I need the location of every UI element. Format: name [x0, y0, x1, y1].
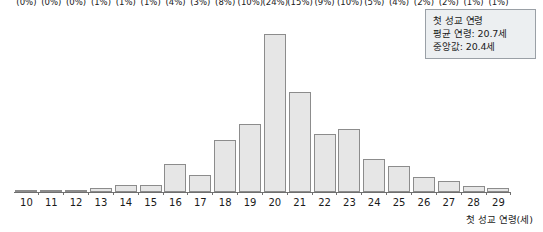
bar-item: 12(2%) [436, 10, 461, 192]
bar-item: 7(1%) [461, 10, 486, 192]
bar-percent-label: (24%) [262, 0, 287, 8]
bar-label-group: 69(10%) [337, 0, 362, 8]
bar-label-group: 75(10%) [238, 0, 263, 8]
bar-percent-label: (4%) [387, 0, 412, 8]
bar-rect: 16(2%) [413, 177, 435, 192]
bar-percent-label: (1%) [89, 0, 114, 8]
x-tick [138, 192, 163, 196]
bar-percent-label: (1%) [486, 0, 511, 8]
bar-percent-label: (1%) [461, 0, 486, 8]
bar-percent-label: (1%) [113, 0, 138, 8]
bar-percent-label: (5%) [362, 0, 387, 8]
x-tick-label: 27 [436, 197, 461, 208]
x-axis-ticks [14, 192, 511, 196]
bar-item: 31(4%) [163, 10, 188, 192]
bar-percent-label: (15%) [287, 0, 312, 8]
x-tick-label: 24 [362, 197, 387, 208]
x-tick-label: 14 [113, 197, 138, 208]
bar-percent-label: (10%) [337, 0, 362, 8]
x-tick-label: 23 [337, 197, 362, 208]
x-tick-mark [510, 192, 511, 195]
x-tick [362, 192, 387, 196]
x-tick [312, 192, 337, 196]
x-tick-label: 15 [138, 197, 163, 208]
bar-percent-label: (9%) [312, 0, 337, 8]
bar-rect: 109(15%) [289, 92, 311, 192]
bar-label-group: 12(2%) [436, 0, 461, 8]
bar-label-group: 2(0%) [64, 0, 89, 8]
bar-label-group: 19(3%) [188, 0, 213, 8]
bar-item: 2(0%) [64, 10, 89, 192]
x-tick [163, 192, 188, 196]
bar-item: 57(8%) [213, 10, 238, 192]
bar-rect: 19(3%) [189, 175, 211, 192]
x-tick-label: 10 [14, 197, 39, 208]
x-tick [213, 192, 238, 196]
bar-label-group: 16(2%) [412, 0, 437, 8]
x-tick-label: 11 [39, 197, 64, 208]
bar-item: 36(5%) [362, 10, 387, 192]
bar-chart-figure: 첫 성교 연령 평균 연령: 20.7세 중앙값: 20.4세 1(0%)1(0… [0, 0, 543, 232]
bar-rect: 36(5%) [363, 159, 385, 192]
bar-rect: 63(9%) [314, 134, 336, 192]
bar-series: 1(0%)1(0%)2(0%)4(1%)8(1%)8(1%)31(4%)19(3… [14, 10, 511, 192]
bar-label-group: 7(1%) [461, 0, 486, 8]
bar-rect: 75(10%) [239, 124, 261, 192]
bar-rect: 12(2%) [438, 181, 460, 192]
bar-percent-label: (4%) [163, 0, 188, 8]
bar-label-group: 1(0%) [14, 0, 39, 8]
bar-rect: 8(1%) [115, 185, 137, 192]
bar-item: 69(10%) [337, 10, 362, 192]
x-tick-label: 28 [461, 197, 486, 208]
x-tick-label: 20 [262, 197, 287, 208]
bar-rect: 31(4%) [164, 164, 186, 192]
bar-item: 1(0%) [14, 10, 39, 192]
x-tick-label: 21 [287, 197, 312, 208]
bar-percent-label: (0%) [64, 0, 89, 8]
x-axis-tick-labels: 1011121314151617181920212223242526272829 [14, 197, 511, 208]
bar-percent-label: (3%) [188, 0, 213, 8]
bar-item: 8(1%) [113, 10, 138, 192]
bar-item: 173(24%) [262, 10, 287, 192]
bar-item: 4(1%) [89, 10, 114, 192]
x-tick [287, 192, 312, 196]
x-tick [188, 192, 213, 196]
bar-item: 29(4%) [387, 10, 412, 192]
x-tick [412, 192, 437, 196]
x-tick-label: 25 [387, 197, 412, 208]
x-tick [14, 192, 39, 196]
x-tick [486, 192, 511, 196]
x-tick-label: 18 [213, 197, 238, 208]
x-tick-label: 29 [486, 197, 511, 208]
bar-item: 1(0%) [39, 10, 64, 192]
x-tick-label: 13 [89, 197, 114, 208]
bar-percent-label: (0%) [14, 0, 39, 8]
bar-rect: 57(8%) [214, 140, 236, 192]
bar-rect: 69(10%) [338, 129, 360, 192]
bar-item: 4(1%) [486, 10, 511, 192]
bar-item: 109(15%) [287, 10, 312, 192]
bar-label-group: 57(8%) [213, 0, 238, 8]
x-tick-label: 26 [412, 197, 437, 208]
x-tick-label: 16 [163, 197, 188, 208]
x-tick-label: 22 [312, 197, 337, 208]
bar-rect: 8(1%) [140, 185, 162, 192]
x-tick [262, 192, 287, 196]
bar-percent-label: (8%) [213, 0, 238, 8]
bar-percent-label: (10%) [238, 0, 263, 8]
x-tick [64, 192, 89, 196]
bar-label-group: 31(4%) [163, 0, 188, 8]
x-tick [238, 192, 263, 196]
x-tick-label: 12 [64, 197, 89, 208]
x-tick [337, 192, 362, 196]
bar-label-group: 8(1%) [113, 0, 138, 8]
bar-label-group: 173(24%) [262, 0, 287, 8]
bar-label-group: 1(0%) [39, 0, 64, 8]
x-tick-label: 19 [238, 197, 263, 208]
bar-label-group: 63(9%) [312, 0, 337, 8]
x-tick [39, 192, 64, 196]
bar-label-group: 109(15%) [287, 0, 312, 8]
bar-label-group: 4(1%) [89, 0, 114, 8]
bar-label-group: 8(1%) [138, 0, 163, 8]
bar-percent-label: (1%) [138, 0, 163, 8]
